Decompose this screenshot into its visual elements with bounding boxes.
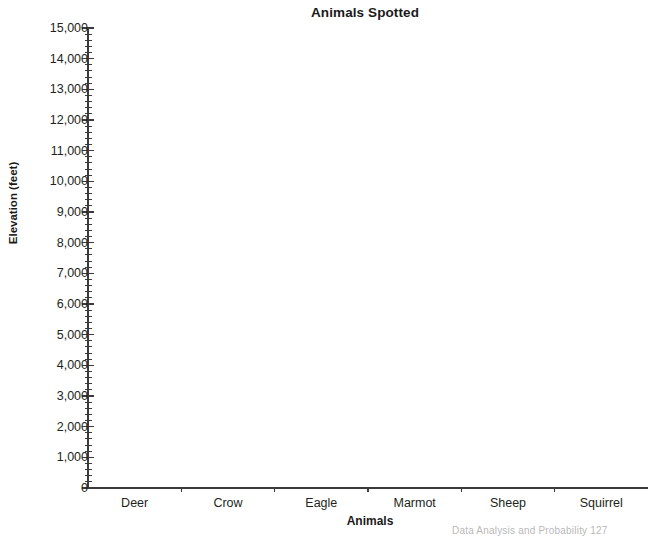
y-axis-tick-label: 5,000 — [0, 328, 88, 342]
y-axis-tick-label: 12,000 — [0, 113, 88, 127]
y-axis-tick-label: 0 — [0, 481, 88, 495]
y-axis-tick-label: 4,000 — [0, 358, 88, 372]
y-axis-tick-label: 8,000 — [0, 236, 88, 250]
y-axis-tick-label: 1,000 — [0, 450, 88, 464]
y-axis-tick-label: 6,000 — [0, 297, 88, 311]
x-axis-tick-label: Squirrel — [541, 496, 648, 510]
page-footer-note: Data Analysis and Probability 127 — [452, 525, 608, 536]
y-axis-tick-label: 14,000 — [0, 52, 88, 66]
y-axis-tick-label: 2,000 — [0, 420, 88, 434]
y-axis-tick-label: 9,000 — [0, 205, 88, 219]
y-axis-tick-label: 13,000 — [0, 82, 88, 96]
y-axis-tick-label: 10,000 — [0, 174, 88, 188]
y-axis-tick-label: 11,000 — [0, 144, 88, 158]
y-axis-tick-label: 3,000 — [0, 389, 88, 403]
y-axis-tick-label: 7,000 — [0, 266, 88, 280]
chart-axes — [82, 27, 648, 492]
y-axis-tick-label: 15,000 — [0, 21, 88, 35]
